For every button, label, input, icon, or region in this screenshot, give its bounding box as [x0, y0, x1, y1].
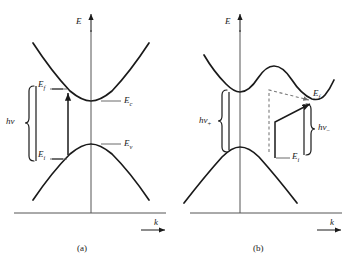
hv-label-a: hν — [6, 116, 15, 126]
panel-caption-b: (b) — [253, 243, 264, 253]
ev-label: Ev — [124, 138, 132, 150]
figure-band-diagram: E k Ef Ei Ec Ev hν (a) E k Ef Ei hν+ hν−… — [0, 0, 354, 266]
e-axis-label-b: E — [225, 16, 231, 26]
hv-plus-brace — [218, 90, 227, 152]
hv-minus-brace — [306, 104, 315, 155]
panel-a — [14, 14, 166, 230]
k-axis-label-a: k — [154, 217, 158, 227]
intervalley-transition-arrow — [275, 104, 310, 158]
ei-label-b: Ei — [292, 151, 299, 163]
band-diagram-canvas — [0, 0, 354, 266]
e-axis-label-a: E — [76, 16, 82, 26]
hv-brace-a — [25, 86, 34, 161]
ei-label-a: Ei — [38, 149, 45, 161]
ef-label-b: Ef — [313, 88, 320, 100]
hv-minus-label: hν− — [318, 122, 330, 134]
hv-plus-label: hν+ — [199, 115, 211, 127]
panel-caption-a: (a) — [77, 243, 87, 253]
k-axis-label-b: k — [330, 217, 334, 227]
ef-label-a: Ef — [38, 79, 45, 91]
ec-label: Ec — [124, 95, 132, 107]
